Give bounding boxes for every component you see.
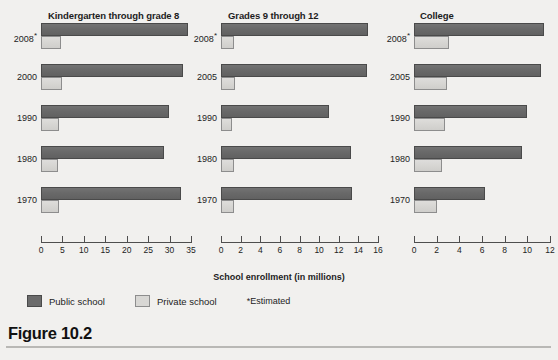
bar-private-school [221,159,234,172]
figure-caption-block: Figure 10.2 [0,324,558,348]
x-axis-tick-label: 2 [238,245,243,255]
bar-public-school [41,64,183,77]
x-axis-tick [221,236,222,243]
x-axis-tick [241,236,242,243]
chart-row: 2008* [41,22,191,60]
chart-row: 1980 [41,145,191,183]
x-axis-tick-label: 35 [186,245,195,255]
x-axis-tick [437,236,438,243]
chart-row: 1970 [41,186,191,224]
y-axis-tick-label: 1990 [390,113,410,123]
bar-public-school [414,105,527,118]
x-axis-tick [527,236,528,243]
x-axis-tick-label: 16 [373,245,382,255]
bar-public-school [414,23,544,36]
x-axis-tick-label: 20 [122,245,131,255]
x-axis-tick-label: 10 [314,245,323,255]
panel-plot-area: 2008*2005199019801970 [221,22,378,234]
bar-public-school [41,105,169,118]
x-axis-tick [339,236,340,243]
chart-panel-kindergarten-through-grade-8: Kindergarten through grade 8 2008*200019… [6,8,192,273]
bar-public-school [41,146,164,159]
x-axis-tick-label: 6 [278,245,283,255]
y-axis-tick-label: 1970 [17,195,37,205]
x-axis-tick [260,236,261,243]
chart-legend: Public school Private school *Estimated [27,292,290,310]
x-axis-tick-label: 4 [457,245,462,255]
chart-row: 2005 [221,63,378,101]
x-axis-tick-label: 0 [219,245,224,255]
x-axis-tick-label: 10 [79,245,88,255]
x-axis-tick [459,236,460,243]
bar-private-school [41,36,61,49]
x-axis-tick-label: 15 [101,245,110,255]
bar-public-school [414,146,522,159]
y-axis-tick-label: 1980 [17,154,37,164]
caption-divider [6,346,551,348]
x-axis-tick [105,236,106,243]
x-axis-tick-label: 12 [334,245,343,255]
y-axis-tick-label: 1970 [390,195,410,205]
figure-10-2: Kindergarten through grade 8 2008*200019… [0,0,558,360]
x-axis-tick-label: 0 [39,245,44,255]
bar-public-school [221,23,368,36]
bar-public-school [221,64,367,77]
bar-private-school [41,77,62,90]
x-axis-tick [84,236,85,243]
panel-title: College [420,10,454,21]
x-axis-tick [319,236,320,243]
x-axis-tick-label: 25 [143,245,152,255]
chart-row: 2008* [414,22,550,60]
axis-line [41,242,191,243]
bar-public-school [221,187,352,200]
x-axis-tick [41,236,42,243]
y-axis-tick-label: 1990 [17,113,37,123]
legend-swatch-public-icon [27,295,42,307]
legend-item-private-school: Private school [135,295,217,307]
chart-row: 2008* [221,22,378,60]
y-axis-tick-label: 2005 [390,72,410,82]
chart-row: 1970 [414,186,550,224]
x-axis-tick-label: 8 [502,245,507,255]
legend-label: Private school [157,296,217,307]
x-axis-tick-label: 10 [523,245,532,255]
chart-row: 1990 [221,104,378,142]
panel-plot-area: 2008*2005199019801970 [414,22,550,234]
x-axis-tick [505,236,506,243]
chart-row: 1970 [221,186,378,224]
bar-private-school [221,36,234,49]
panel-title: Kindergarten through grade 8 [48,10,179,21]
x-axis-tick [482,236,483,243]
x-axis-tick-label: 30 [165,245,174,255]
legend-swatch-private-icon [135,295,150,307]
chart-panels: Kindergarten through grade 8 2008*200019… [0,8,558,273]
x-axis-tick [127,236,128,243]
legend-item-public-school: Public school [27,295,105,307]
chart-row: 2000 [41,63,191,101]
x-axis-tick [62,236,63,243]
figure-caption: Figure 10.2 [0,324,558,346]
y-axis-tick-label: 1970 [197,195,217,205]
x-axis-tick-label: 0 [412,245,417,255]
chart-row: 1990 [41,104,191,142]
bar-public-school [41,23,188,36]
bar-private-school [414,118,445,131]
x-axis-tick-label: 4 [258,245,263,255]
y-axis-tick-label: 1980 [197,154,217,164]
chart-row: 2005 [414,63,550,101]
legend-estimated-note: *Estimated [247,296,291,306]
x-axis-tick [148,236,149,243]
bar-private-school [414,159,442,172]
panel-plot-area: 2008*2000199019801970 [41,22,191,234]
y-axis-tick-label: 2000 [17,72,37,82]
x-axis-tick [414,236,415,243]
x-axis-tick-label: 2 [434,245,439,255]
bar-private-school [221,200,234,213]
bar-private-school [414,200,437,213]
bar-private-school [221,77,235,90]
x-axis-tick [191,236,192,243]
x-axis-tick [280,236,281,243]
bar-public-school [221,105,329,118]
chart-row: 1980 [221,145,378,183]
bar-public-school [41,187,181,200]
